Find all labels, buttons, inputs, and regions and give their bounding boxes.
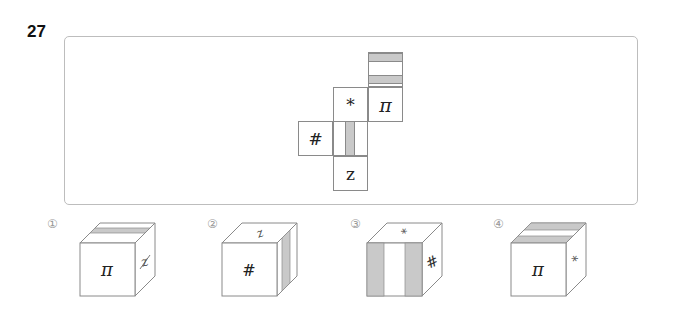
net-cell-hash: # [298, 121, 333, 156]
svg-text:π: π [531, 259, 545, 280]
net-cell-top-stripes [368, 52, 403, 87]
asterisk-symbol: * [346, 95, 355, 115]
z-symbol: z [346, 164, 355, 184]
svg-text:#: # [242, 261, 255, 280]
option-2-cube[interactable]: z # [220, 221, 300, 299]
option-4-label[interactable]: ④ [493, 217, 504, 231]
net-cell-z: z [333, 156, 368, 191]
pi-symbol: π [379, 94, 392, 116]
net-cell-center-stripe [333, 121, 368, 156]
option-3-cube[interactable]: * # [365, 221, 445, 299]
option-4-cube[interactable]: π * [509, 221, 589, 299]
option-3-label[interactable]: ③ [350, 217, 361, 231]
question-number: 27 [27, 22, 46, 42]
hash-symbol: # [308, 129, 322, 149]
net-cell-pi: π [368, 87, 403, 122]
option-2-label[interactable]: ② [207, 217, 218, 231]
svg-text:π: π [100, 259, 114, 280]
option-1-label[interactable]: ① [47, 217, 58, 231]
net-cell-asterisk: * [333, 87, 368, 122]
option-1-cube[interactable]: π z [78, 221, 158, 299]
stripe-icon [345, 122, 355, 155]
stripe-icon [369, 53, 402, 62]
stripe-icon [369, 75, 402, 84]
